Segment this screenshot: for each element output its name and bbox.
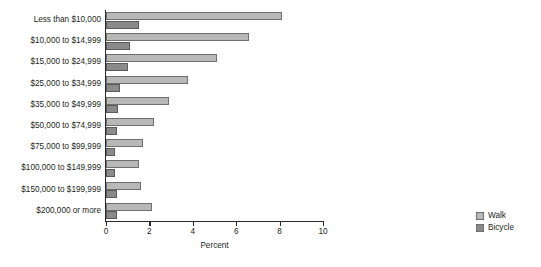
y-axis-label: $200,000 or more bbox=[1, 206, 101, 216]
bar-group bbox=[106, 74, 323, 95]
bar-group bbox=[106, 95, 323, 116]
y-axis-label: $15,000 to $24,999 bbox=[1, 57, 101, 67]
bar-group bbox=[106, 137, 323, 158]
x-axis-tick-label: 4 bbox=[183, 227, 203, 236]
x-axis-tick bbox=[106, 221, 107, 226]
bar-group bbox=[106, 52, 323, 73]
x-axis-tick bbox=[236, 221, 237, 226]
bar-bicycle bbox=[106, 211, 117, 219]
y-axis-label: $35,000 to $49,999 bbox=[1, 100, 101, 110]
legend-swatch bbox=[476, 212, 484, 220]
bar-bicycle bbox=[106, 84, 120, 92]
x-axis-title: Percent bbox=[106, 241, 323, 250]
x-axis-tick bbox=[193, 221, 194, 226]
bar-walk bbox=[106, 139, 143, 147]
x-axis-tick-label: 8 bbox=[270, 227, 290, 236]
x-axis-tick-label: 2 bbox=[139, 227, 159, 236]
bar-bicycle bbox=[106, 148, 115, 156]
bar-walk bbox=[106, 160, 139, 168]
bar-group bbox=[106, 116, 323, 137]
bar-walk bbox=[106, 76, 188, 84]
bar-walk bbox=[106, 54, 217, 62]
bar-bicycle bbox=[106, 169, 115, 177]
bar-walk bbox=[106, 97, 169, 105]
bar-group bbox=[106, 180, 323, 201]
bar-walk bbox=[106, 182, 141, 190]
x-axis-tick bbox=[149, 221, 150, 226]
x-axis-tick bbox=[323, 221, 324, 226]
x-axis-tick-label: 10 bbox=[313, 227, 333, 236]
bar-group bbox=[106, 158, 323, 179]
legend-item: Bicycle bbox=[476, 222, 536, 233]
bar-chart: Less than $10,000$10,000 to $14,999$15,0… bbox=[0, 0, 541, 267]
x-axis-tick-label: 0 bbox=[96, 227, 116, 236]
legend-swatch bbox=[476, 224, 484, 232]
y-axis-label: $10,000 to $14,999 bbox=[1, 36, 101, 46]
x-axis-tick bbox=[280, 221, 281, 226]
bar-bicycle bbox=[106, 63, 128, 71]
legend-item: Walk bbox=[476, 210, 536, 221]
legend-label: Walk bbox=[488, 211, 506, 220]
bar-bicycle bbox=[106, 127, 117, 135]
bar-walk bbox=[106, 118, 154, 126]
bar-group bbox=[106, 201, 323, 222]
bar-bicycle bbox=[106, 21, 139, 29]
y-axis-category-labels: Less than $10,000$10,000 to $14,999$15,0… bbox=[0, 10, 101, 222]
y-axis-label: $150,000 to $199,999 bbox=[1, 185, 101, 195]
bar-bicycle bbox=[106, 42, 130, 50]
y-axis-label: $100,000 to $149,999 bbox=[1, 163, 101, 173]
bar-bicycle bbox=[106, 105, 118, 113]
bar-group bbox=[106, 10, 323, 31]
plot-area bbox=[106, 10, 323, 222]
bar-group bbox=[106, 31, 323, 52]
legend-label: Bicycle bbox=[488, 223, 514, 232]
y-axis-label: $25,000 to $34,999 bbox=[1, 79, 101, 89]
y-axis-label: $50,000 to $74,999 bbox=[1, 121, 101, 131]
chart-legend: WalkBicycle bbox=[476, 210, 536, 234]
y-axis-label: $75,000 to $99,999 bbox=[1, 142, 101, 152]
bar-walk bbox=[106, 203, 152, 211]
x-axis-tick-label: 6 bbox=[226, 227, 246, 236]
bar-walk bbox=[106, 33, 249, 41]
bar-bicycle bbox=[106, 190, 117, 198]
bar-walk bbox=[106, 12, 282, 20]
y-axis-label: Less than $10,000 bbox=[1, 15, 101, 25]
